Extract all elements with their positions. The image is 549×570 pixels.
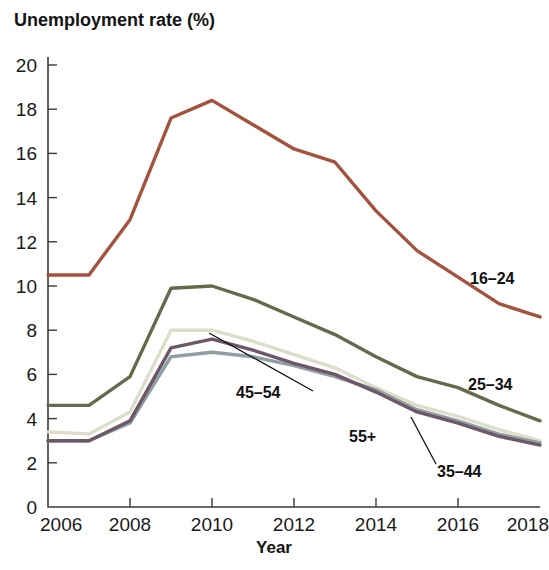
x-axis-tick-labels: 2006200820102012201420162018 bbox=[40, 514, 549, 535]
series-label-55+: 55+ bbox=[349, 428, 376, 445]
series-line-16-24 bbox=[48, 100, 540, 317]
x-tick-label: 2008 bbox=[109, 514, 151, 535]
leader-line-35-44 bbox=[411, 417, 436, 464]
series-label-35-44: 35–44 bbox=[437, 463, 482, 480]
y-axis-tick-labels: 02468101214161820 bbox=[16, 55, 38, 518]
leader-line-45-54 bbox=[209, 333, 313, 391]
chart-title: Unemployment rate (%) bbox=[14, 10, 215, 30]
series-line-55+ bbox=[48, 352, 540, 443]
axis-tick-marks bbox=[48, 65, 458, 507]
y-tick-label: 4 bbox=[26, 409, 37, 430]
y-tick-label: 10 bbox=[16, 276, 37, 297]
y-tick-label: 18 bbox=[16, 99, 37, 120]
x-tick-label: 2014 bbox=[355, 514, 398, 535]
y-tick-label: 8 bbox=[26, 320, 37, 341]
y-tick-label: 2 bbox=[26, 453, 37, 474]
series-lines bbox=[48, 100, 540, 445]
x-tick-label: 2010 bbox=[191, 514, 233, 535]
y-tick-label: 16 bbox=[16, 143, 37, 164]
series-label-25-34: 25–34 bbox=[468, 376, 513, 393]
y-tick-label: 20 bbox=[16, 55, 37, 76]
y-tick-label: 14 bbox=[16, 188, 38, 209]
chart-container: Unemployment rate (%) 02468101214161820 … bbox=[0, 0, 549, 570]
y-tick-label: 0 bbox=[26, 497, 37, 518]
series-label-45-54: 45–54 bbox=[236, 384, 281, 401]
series-label-16-24: 16–24 bbox=[470, 270, 515, 287]
x-tick-label: 2006 bbox=[40, 514, 82, 535]
x-tick-label: 2012 bbox=[273, 514, 315, 535]
y-tick-label: 6 bbox=[26, 364, 37, 385]
y-tick-label: 12 bbox=[16, 232, 37, 253]
x-tick-label: 2018 bbox=[507, 514, 549, 535]
x-tick-label: 2016 bbox=[437, 514, 479, 535]
x-axis-title: Year bbox=[256, 538, 292, 557]
unemployment-rate-line-chart: Unemployment rate (%) 02468101214161820 … bbox=[0, 0, 549, 570]
